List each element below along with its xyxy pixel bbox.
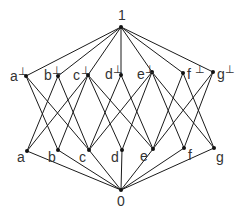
node-d (120, 148, 124, 152)
perp-symbol-g_perp: ⊥ (225, 63, 235, 76)
label-c_perp: c (73, 67, 80, 83)
node-g_perp (211, 70, 215, 74)
label-a_perp: a (10, 68, 18, 84)
node-a (25, 149, 29, 153)
label-top: 1 (118, 7, 126, 23)
node-f_perp (181, 71, 185, 75)
edge-e_perp-d (122, 72, 152, 150)
node-b (56, 148, 60, 152)
label-c: c (79, 149, 86, 165)
node-e (151, 147, 155, 151)
node-top (119, 25, 123, 29)
edge-d_perp-c (89, 75, 121, 150)
edge-e_perp-c (89, 72, 152, 150)
perp-symbol-d_perp: ⊥ (113, 63, 123, 76)
edge-bottom-g (121, 148, 214, 190)
perp-symbol-a_perp: ⊥ (18, 65, 28, 78)
perp-symbol-f_perp: ⊥ (195, 63, 205, 76)
perp-symbol-e_perp: ⊥ (145, 63, 155, 76)
perp-symbol-b_perp: ⊥ (52, 64, 62, 77)
label-a: a (17, 149, 25, 165)
edge-bottom-a (27, 151, 121, 190)
label-b: b (48, 149, 56, 165)
edge-bottom-e (121, 149, 153, 190)
label-e_perp: e (137, 66, 145, 82)
label-b_perp: b (44, 67, 52, 83)
hasse-diagram: 1a⊥b⊥c⊥d⊥e⊥f⊥g⊥abcdefg0 (0, 0, 242, 216)
label-g: g (216, 149, 224, 165)
node-f (182, 146, 186, 150)
perp-symbol-c_perp: ⊥ (81, 64, 91, 77)
nodes-layer (24, 25, 216, 192)
label-d_perp: d (105, 66, 113, 82)
label-d: d (111, 149, 119, 165)
label-g_perp: g (217, 66, 225, 82)
edges-layer (26, 27, 214, 190)
edge-c_perp-a (27, 75, 88, 151)
edge-bottom-d (121, 150, 122, 190)
edge-g_perp-f (184, 72, 213, 148)
label-e: e (140, 148, 148, 164)
edge-bottom-f (121, 148, 184, 190)
label-f: f (188, 147, 192, 163)
label-f_perp: f (187, 66, 191, 82)
node-c (87, 148, 91, 152)
node-bottom (119, 188, 123, 192)
edge-c_perp-e (88, 75, 153, 149)
label-bottom: 0 (117, 193, 125, 209)
